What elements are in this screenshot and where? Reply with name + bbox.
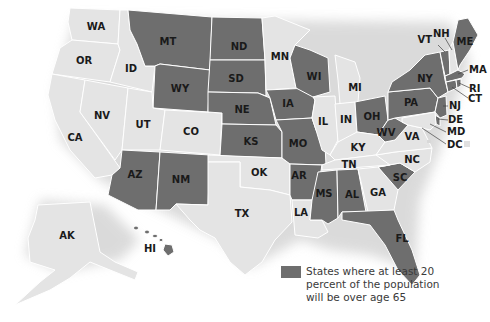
label-MD: MD: [447, 126, 465, 137]
label-KS: KS: [244, 136, 259, 147]
legend-swatch: [281, 266, 301, 278]
label-LA: LA: [294, 207, 308, 218]
label-IN: IN: [340, 114, 352, 125]
label-MN: MN: [271, 51, 289, 62]
label-GA: GA: [370, 187, 386, 198]
label-HI: HI: [144, 243, 156, 254]
label-WV: WV: [377, 127, 396, 138]
label-VT: VT: [417, 34, 432, 45]
label-NE: NE: [234, 104, 249, 115]
label-FL: FL: [395, 233, 409, 244]
label-CT: CT: [468, 93, 482, 104]
label-TX: TX: [235, 208, 250, 219]
label-CO: CO: [183, 126, 199, 137]
label-DC: DC: [447, 139, 463, 150]
label-ID: ID: [125, 63, 137, 74]
label-TN: TN: [341, 159, 356, 170]
label-AR: AR: [291, 170, 307, 181]
label-MI: MI: [348, 82, 362, 93]
label-WY: WY: [171, 83, 190, 94]
label-NH: NH: [433, 28, 450, 39]
label-PA: PA: [404, 97, 418, 108]
label-MS: MS: [315, 188, 332, 199]
label-AK: AK: [59, 230, 76, 241]
label-SD: SD: [228, 73, 244, 84]
label-IA: IA: [282, 98, 294, 109]
state-ND[interactable]: [210, 17, 265, 60]
label-OR: OR: [76, 55, 93, 66]
label-SC: SC: [393, 172, 408, 183]
label-NM: NM: [172, 174, 190, 185]
label-MO: MO: [289, 138, 307, 149]
label-AZ: AZ: [128, 169, 143, 180]
label-OH: OH: [364, 111, 381, 122]
dc-box: [464, 141, 470, 147]
label-NJ: NJ: [449, 100, 461, 111]
label-UT: UT: [136, 119, 151, 130]
label-WI: WI: [307, 71, 322, 82]
label-KY: KY: [351, 142, 367, 153]
label-MA: MA: [469, 64, 487, 75]
label-VA: VA: [405, 131, 420, 142]
label-NC: NC: [404, 154, 420, 165]
label-NV: NV: [94, 110, 110, 121]
label-WA: WA: [87, 21, 106, 32]
legend-text: States where at least 20 percent of the …: [306, 265, 456, 304]
label-OK: OK: [251, 167, 269, 178]
label-AL: AL: [345, 189, 360, 200]
label-ND: ND: [231, 41, 248, 52]
label-ME: ME: [457, 36, 474, 47]
label-DE: DE: [448, 114, 463, 125]
dc-marker: [427, 140, 431, 143]
label-IL: IL: [318, 116, 329, 127]
label-CA: CA: [67, 132, 82, 143]
label-MT: MT: [160, 36, 177, 47]
label-NY: NY: [417, 73, 433, 84]
